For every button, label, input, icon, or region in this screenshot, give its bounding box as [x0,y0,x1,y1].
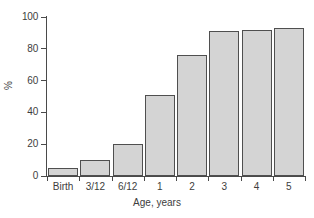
y-axis-tick [41,17,46,18]
bar-chart-figure: % 020406080100 Birth3/126/1212345 Age, y… [0,0,314,218]
bar [242,30,272,176]
y-axis-tick-label: 100 [22,12,38,22]
x-axis-tick-label: 3/12 [79,181,111,192]
y-axis-tick-label: 20 [27,139,38,149]
x-axis-tick-label: 4 [241,181,273,192]
y-axis-tick [41,176,46,177]
bar [209,31,239,176]
x-axis-tick-label: 5 [273,181,305,192]
y-axis-tick [41,48,46,49]
y-axis-tick [41,144,46,145]
y-axis-title: % [4,81,14,90]
x-axis-tick-label: 6/12 [112,181,144,192]
x-axis-tick-label: 3 [208,181,240,192]
bar [80,160,110,176]
x-axis-tick-label: Birth [47,181,79,192]
y-axis-tick-label: 40 [27,107,38,117]
x-axis-tick-label: 2 [176,181,208,192]
y-axis-tick [41,80,46,81]
y-axis-tick-label: 80 [27,44,38,54]
bar [145,95,175,176]
bar [177,55,207,176]
x-axis-title: Age, years [0,197,314,208]
x-axis-tick [305,177,306,181]
y-axis-tick-label: 60 [27,76,38,86]
bar [113,144,143,176]
x-axis-tick-label: 1 [144,181,176,192]
y-axis-tick-label: 0 [33,171,38,181]
bar [274,28,304,176]
y-axis-tick [41,112,46,113]
bar [48,168,78,176]
plot-area [47,17,305,176]
